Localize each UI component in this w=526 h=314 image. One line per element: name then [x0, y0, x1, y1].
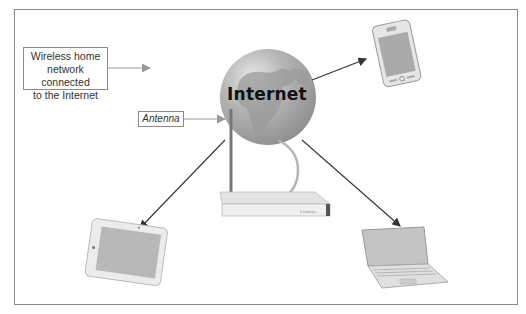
arrow-to-phone	[312, 59, 366, 80]
router-icon: Linksys	[220, 192, 330, 216]
smartphone-icon	[372, 19, 422, 88]
callout-line-3: to the Internet	[24, 89, 107, 102]
callout-line-2: network connected	[24, 63, 107, 89]
arrow-to-tablet	[140, 140, 225, 228]
router-cable	[278, 140, 298, 198]
callout-wireless-home-network: Wireless home network connected to the I…	[23, 47, 108, 90]
callout-line-1: Wireless home	[24, 50, 107, 63]
svg-text:Linksys: Linksys	[300, 209, 316, 214]
tablet-icon	[85, 218, 168, 286]
callout-antenna: Antenna	[138, 111, 184, 127]
internet-label: Internet	[212, 84, 322, 104]
laptop-icon	[362, 227, 448, 288]
